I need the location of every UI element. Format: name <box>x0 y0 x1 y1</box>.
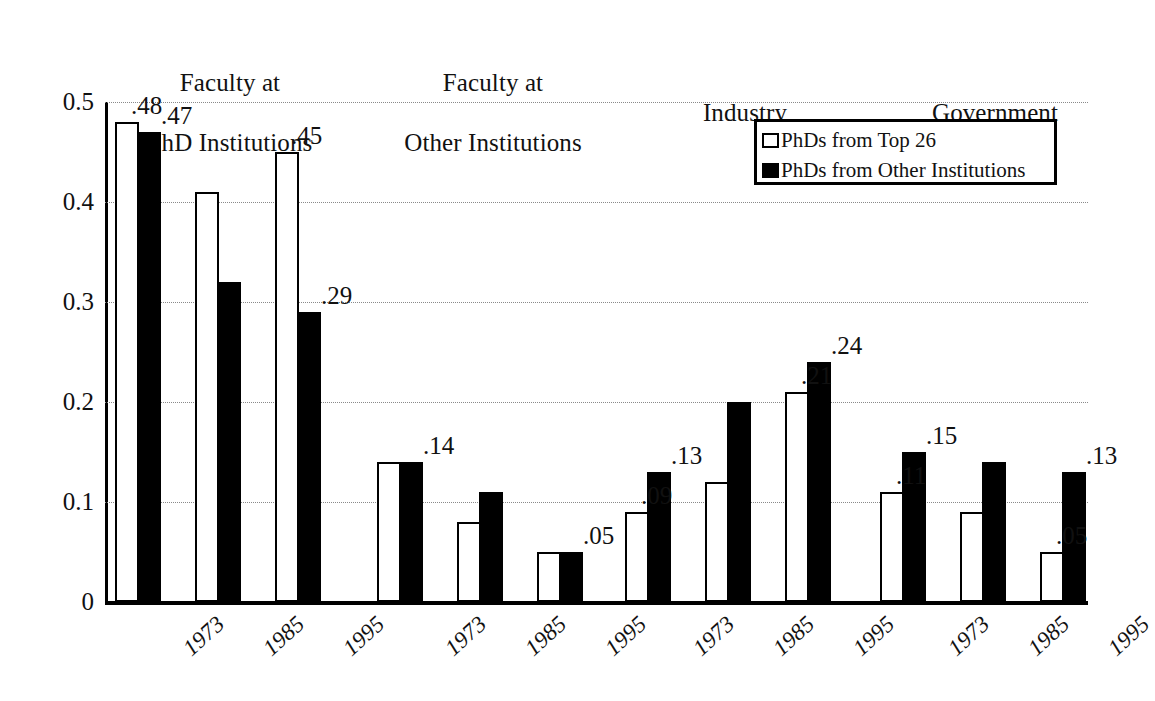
y-axis-tick-label: 0.1 <box>8 489 94 514</box>
x-axis-tick-label: 1973 <box>441 612 491 660</box>
bar-value-label: .48 <box>131 93 162 118</box>
bar-value-label: .09 <box>641 483 672 508</box>
y-axis-tick-label: 0.3 <box>8 289 94 314</box>
x-axis-tick-label: 1985 <box>1024 612 1074 660</box>
bar-value-label: .45 <box>291 123 322 148</box>
bar-top26 <box>625 512 649 602</box>
bar-value-label: .05 <box>583 523 614 548</box>
bar-value-label: .11 <box>896 463 926 488</box>
legend-swatch-hollow-icon <box>762 133 779 148</box>
y-axis-tick-label: 0.5 <box>8 89 94 114</box>
y-axis-line <box>105 102 108 602</box>
legend: PhDs from Top 26 PhDs from Other Institu… <box>754 119 1057 185</box>
bar-top26 <box>195 192 219 602</box>
x-axis-tick-label: 1995 <box>1104 612 1154 660</box>
bar-top26 <box>275 152 299 602</box>
bar-other-institutions <box>727 402 751 602</box>
group-header-line1: Faculty at <box>362 68 624 98</box>
bar-top26 <box>880 492 904 602</box>
bar-value-label: .14 <box>423 433 454 458</box>
gridline <box>105 202 1088 203</box>
bar-other-institutions <box>559 552 583 602</box>
x-axis-line <box>105 601 1088 605</box>
bar-other-institutions <box>217 282 241 602</box>
legend-label: PhDs from Top 26 <box>781 130 936 151</box>
bar-other-institutions <box>479 492 503 602</box>
x-axis-tick-label: 1985 <box>521 612 571 660</box>
bar-other-institutions <box>399 462 423 602</box>
bar-top26 <box>115 122 139 602</box>
gridline <box>105 102 1088 103</box>
y-axis-tick-label: 0.4 <box>8 189 94 214</box>
gridline <box>105 302 1088 303</box>
x-axis-tick-label: 1985 <box>769 612 819 660</box>
bar-other-institutions <box>982 462 1006 602</box>
bar-top26 <box>785 392 809 602</box>
bar-value-label: .15 <box>926 423 957 448</box>
bar-value-label: .29 <box>321 283 352 308</box>
bar-top26 <box>537 552 561 602</box>
legend-label: PhDs from Other Institutions <box>781 160 1025 181</box>
bar-top26 <box>457 522 481 602</box>
bar-other-institutions <box>137 132 161 602</box>
bar-value-label: .24 <box>831 333 862 358</box>
x-axis-tick-label: 1985 <box>259 612 309 660</box>
bar-value-label: .13 <box>1086 443 1117 468</box>
x-axis-tick-label: 1973 <box>944 612 994 660</box>
bar-value-label: .13 <box>671 443 702 468</box>
x-axis-tick-label: 1973 <box>179 612 229 660</box>
bar-value-label: .05 <box>1056 523 1087 548</box>
y-axis-tick-label: 0.2 <box>8 389 94 414</box>
bar-value-label: .21 <box>801 363 832 388</box>
bar-other-institutions <box>807 362 831 602</box>
x-axis-tick-label: 1995 <box>339 612 389 660</box>
bar-top26 <box>1040 552 1064 602</box>
legend-item-other: PhDs from Other Institutions <box>762 155 1054 185</box>
legend-item-top26: PhDs from Top 26 <box>762 125 1054 155</box>
bar-top26 <box>960 512 984 602</box>
x-axis-tick-label: 1973 <box>689 612 739 660</box>
bar-top26 <box>377 462 401 602</box>
legend-swatch-filled-icon <box>762 163 779 178</box>
x-axis-tick-label: 1995 <box>601 612 651 660</box>
gridline <box>105 502 1088 503</box>
gridline <box>105 402 1088 403</box>
bar-other-institutions <box>297 312 321 602</box>
y-axis-tick-label: 0 <box>8 589 94 614</box>
chart-canvas: Faculty at PhD Institutions Faculty at O… <box>0 0 1155 701</box>
bar-value-label: .47 <box>161 103 192 128</box>
x-axis-tick-label: 1995 <box>849 612 899 660</box>
bar-top26 <box>705 482 729 602</box>
